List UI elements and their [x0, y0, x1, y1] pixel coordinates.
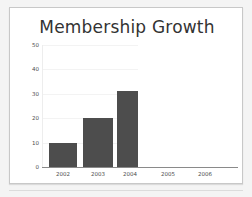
chart-title: Membership Growth [10, 17, 244, 37]
slide-bottom-rule [9, 190, 243, 191]
bars-layer [43, 45, 239, 167]
y-tick-label-40: 40 [17, 66, 39, 72]
bar-2002[interactable] [49, 143, 77, 167]
y-tick-label-20: 20 [17, 115, 39, 121]
x-axis-tick-labels: 2002 2003 2004 2005 2006 [43, 170, 239, 182]
x-tick-label-2003: 2003 [81, 170, 115, 178]
x-tick-label-2004: 2004 [113, 170, 147, 178]
bar-2003[interactable] [83, 118, 113, 167]
category-axis-line [42, 167, 238, 168]
x-tick-label-2002: 2002 [46, 170, 80, 178]
slide-area: Membership Growth 50 40 30 20 10 0 2002 … [0, 0, 252, 197]
y-tick-label-10: 10 [17, 140, 39, 146]
y-tick-label-30: 30 [17, 91, 39, 97]
y-axis-tick-labels: 50 40 30 20 10 0 [15, 8, 39, 185]
x-tick-label-2006: 2006 [188, 170, 222, 178]
chart-panel[interactable]: Membership Growth 50 40 30 20 10 0 2002 … [9, 7, 243, 184]
bar-2004[interactable] [117, 91, 138, 167]
y-tick-label-0: 0 [17, 164, 39, 170]
x-tick-label-2005: 2005 [151, 170, 185, 178]
y-tick-label-50: 50 [17, 42, 39, 48]
